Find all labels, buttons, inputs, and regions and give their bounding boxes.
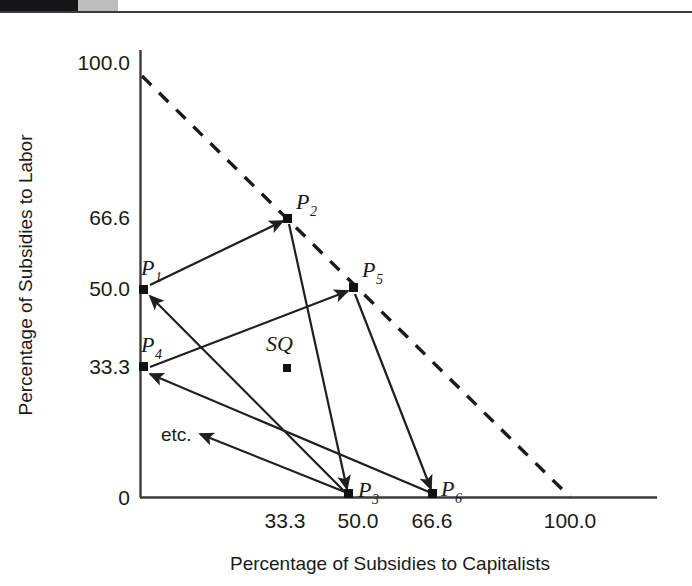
x-tick-66: 66.6 <box>412 509 453 532</box>
label-p5: P <box>361 257 375 282</box>
figure-container: P 1 P 2 P 3 P 4 P 5 P 6 SQ etc. 100.0 66… <box>0 0 692 586</box>
scatter-plot: P 1 P 2 P 3 P 4 P 5 P 6 SQ etc. 100.0 66… <box>0 0 692 586</box>
marker-p1 <box>139 285 148 294</box>
point-markers <box>139 214 437 498</box>
y-axis-title: Percentage of Subsidies to Labor <box>15 134 36 416</box>
label-p3-subscript: 3 <box>371 492 379 507</box>
label-p1: P <box>140 255 154 280</box>
label-p6-subscript: 6 <box>455 491 462 506</box>
marker-p5 <box>349 283 358 292</box>
x-tick-labels: 33.3 50.0 66.6 100.0 <box>265 509 597 532</box>
label-p4: P <box>140 332 154 357</box>
y-tick-0: 0 <box>118 486 130 509</box>
label-p2: P <box>295 189 309 214</box>
axis-lines <box>140 50 657 498</box>
label-p6: P <box>440 476 454 501</box>
etc-arrow <box>200 434 345 492</box>
label-p3: P <box>357 477 371 502</box>
marker-sq <box>283 364 291 372</box>
point-labels: P 1 P 2 P 3 P 4 P 5 P 6 SQ <box>140 189 462 507</box>
arrow-p1-to-p2 <box>150 221 283 285</box>
arrow-p3-to-p1 <box>150 296 345 492</box>
label-p4-subscript: 4 <box>155 347 162 362</box>
y-tick-50: 50.0 <box>89 277 130 300</box>
x-tick-100: 100.0 <box>544 509 597 532</box>
x-tick-33: 33.3 <box>265 509 306 532</box>
arrow-p6-to-p4 <box>150 374 429 492</box>
label-p5-subscript: 5 <box>376 272 383 287</box>
marker-p3 <box>344 489 353 498</box>
x-tick-50: 50.0 <box>338 509 379 532</box>
label-p1-subscript: 1 <box>155 270 162 285</box>
y-tick-100: 100.0 <box>77 51 130 74</box>
y-tick-66: 66.6 <box>89 206 130 229</box>
arrow-p5-to-p6 <box>355 294 431 489</box>
marker-p2 <box>283 214 292 223</box>
label-sq: SQ <box>266 331 293 356</box>
annotation-etc: etc. <box>161 424 192 445</box>
marker-p6 <box>428 489 437 498</box>
label-p2-subscript: 2 <box>310 204 317 219</box>
y-tick-33: 33.3 <box>89 355 130 378</box>
marker-p4 <box>139 362 148 371</box>
y-tick-labels: 100.0 66.6 50.0 33.3 0 <box>77 51 130 509</box>
arrow-p2-to-p3 <box>289 224 347 489</box>
x-axis-title: Percentage of Subsidies to Capitalists <box>230 553 550 574</box>
